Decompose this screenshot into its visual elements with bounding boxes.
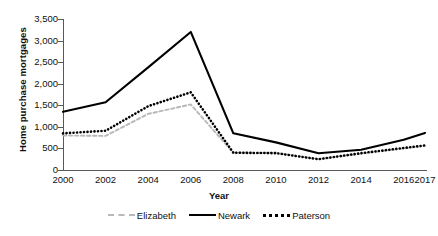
y-axis-tick [58,84,63,85]
x-tick-label: 2014 [339,174,383,185]
y-axis-tick [58,62,63,63]
series-line-newark [63,32,425,153]
y-axis-tick [58,41,63,42]
x-tick-label: 2006 [169,174,213,185]
x-axis-title: Year [0,190,438,201]
x-tick-label: 2017 [403,174,438,185]
legend-item-elizabeth[interactable]: Elizabeth [108,210,176,221]
legend-label-paterson: Paterson [292,210,330,221]
x-tick-label: 2012 [297,174,341,185]
legend-swatch-elizabeth [108,214,135,216]
legend-item-paterson[interactable]: Paterson [263,210,330,221]
x-tick-label: 2002 [84,174,128,185]
x-tick-label: 2008 [211,174,255,185]
x-tick-label: 2010 [254,174,298,185]
series-line-elizabeth [63,104,425,159]
legend-swatch-paterson [263,214,290,217]
chart-legend: Elizabeth Newark Paterson [0,206,438,224]
series-line-paterson [63,92,425,159]
y-axis-tick [58,170,63,171]
y-axis-tick [58,148,63,149]
chart-container: Home purchase mortgages 3,5003,0002,5002… [0,0,438,236]
legend-label-elizabeth: Elizabeth [137,210,176,221]
legend-item-newark[interactable]: Newark [189,210,250,221]
legend-swatch-newark [189,214,216,216]
x-tick-label: 2004 [126,174,170,185]
y-axis-tick [58,127,63,128]
legend-label-newark: Newark [218,210,250,221]
y-axis-tick [58,19,63,20]
y-axis-tick [58,105,63,106]
x-tick-label: 2000 [41,174,85,185]
